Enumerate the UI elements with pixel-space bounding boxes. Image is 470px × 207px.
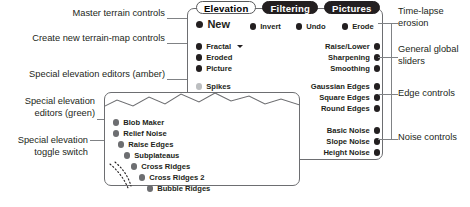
leader-line-edge-controls <box>378 94 398 95</box>
leader-line-global-sliders <box>378 57 398 58</box>
control-label: Fractal <box>206 42 231 51</box>
leader-line-amber-editors <box>167 79 187 80</box>
control-label: Undo <box>306 22 325 31</box>
control-invert[interactable]: Invert <box>250 22 281 31</box>
control-erode[interactable]: Erode <box>342 22 374 31</box>
control-label: Round Edges <box>321 104 370 113</box>
control-cross-ridges-2[interactable]: Cross Ridges 2 <box>139 173 204 182</box>
tab-elevation[interactable]: Elevation <box>196 1 256 14</box>
toggle-dot-icon[interactable] <box>374 83 380 89</box>
control-label: Picture <box>206 64 232 73</box>
tab-pictures[interactable]: Pictures <box>324 1 379 14</box>
toggle-dot-icon[interactable] <box>196 43 202 49</box>
control-label: Subplateaus <box>134 151 179 160</box>
control-subplateaus[interactable]: Subplateaus <box>124 151 179 160</box>
toggle-dot-icon[interactable] <box>374 149 380 155</box>
annotation-line: General global <box>398 44 458 56</box>
toggle-dot-icon[interactable] <box>196 54 202 60</box>
control-bubble-ridges[interactable]: Bubble Ridges <box>147 184 210 193</box>
annotation-line: Time-lapse <box>398 6 444 18</box>
toggle-dot-icon[interactable] <box>113 119 119 125</box>
toggle-dot-icon[interactable] <box>196 21 203 28</box>
control-label: Cross Ridges <box>141 162 190 171</box>
control-label: Square Edges <box>319 93 370 102</box>
control-label: Slope Noise <box>326 137 369 146</box>
control-eroded[interactable]: Eroded <box>196 53 232 62</box>
annotation-time-lapse-erosion: Time-lapse erosion <box>398 6 444 29</box>
control-label: Blob Maker <box>123 118 164 127</box>
leader-line-create-new-terrain <box>167 43 187 44</box>
control-label: Smoothing <box>330 64 370 73</box>
toggle-dot-icon[interactable] <box>124 152 130 158</box>
control-raise-edges[interactable]: Raise Edges <box>118 140 173 149</box>
control-label: Cross Ridges 2 <box>149 173 204 182</box>
annotation-line: Special elevation <box>0 135 88 147</box>
annotation-noise-controls: Noise controls <box>398 132 457 144</box>
annotation-line: sliders <box>398 56 458 68</box>
control-height-noise[interactable]: Height Noise <box>323 148 380 157</box>
control-new[interactable]: New <box>196 20 230 29</box>
tab-label: Pictures <box>332 3 371 14</box>
toggle-dot-icon[interactable] <box>196 83 202 89</box>
control-slope-noise[interactable]: Slope Noise <box>326 137 380 146</box>
control-raise-lower[interactable]: Raise/Lower <box>325 42 380 51</box>
torn-edge-decoration <box>104 92 300 113</box>
toggle-dot-icon[interactable] <box>374 94 380 100</box>
control-label: Raise/Lower <box>325 42 370 51</box>
leader-line-master-terrain <box>167 18 187 19</box>
control-label: New <box>207 20 230 29</box>
toggle-dot-icon[interactable] <box>147 185 153 191</box>
dotted-arc-marker-green <box>106 160 132 192</box>
annotation-line: Special elevation editors (amber) <box>29 69 165 79</box>
control-gaussian-edges[interactable]: Gaussian Edges <box>311 82 380 91</box>
control-label: Height Noise <box>323 148 369 157</box>
control-square-edges[interactable]: Square Edges <box>319 93 380 102</box>
annotation-line: Noise controls <box>398 132 457 142</box>
toggle-dot-icon[interactable] <box>374 127 380 133</box>
chevron-down-icon[interactable] <box>237 45 243 48</box>
control-picture[interactable]: Picture <box>196 64 232 73</box>
annotation-line: Create new terrain-map controls <box>32 33 165 43</box>
leader-line-right-spine <box>391 23 392 140</box>
control-label: Eroded <box>206 53 232 62</box>
toggle-dot-icon[interactable] <box>374 105 380 111</box>
control-blob-maker[interactable]: Blob Maker <box>113 118 164 127</box>
annotation-line: erosion <box>398 18 444 30</box>
toggle-dot-icon[interactable] <box>374 65 380 71</box>
toggle-dot-icon[interactable] <box>374 43 380 49</box>
control-sharpening[interactable]: Sharpening <box>328 53 380 62</box>
control-undo[interactable]: Undo <box>296 22 326 31</box>
annotation-line: Special elevation <box>0 96 95 108</box>
toggle-dot-icon[interactable] <box>296 23 302 29</box>
control-label: Erode <box>352 22 374 31</box>
toggle-dot-icon[interactable] <box>342 23 348 29</box>
leader-line-noise-controls <box>378 139 398 140</box>
annotation-master-terrain-controls: Master terrain controls <box>10 8 165 20</box>
control-cross-ridges[interactable]: Cross Ridges <box>131 162 190 171</box>
control-label: Invert <box>260 22 281 31</box>
annotation-line: Edge controls <box>398 88 455 98</box>
annotation-special-elevation-toggle-switch: Special elevation toggle switch <box>0 135 88 158</box>
toggle-dot-icon[interactable] <box>118 141 124 147</box>
tab-label: Elevation <box>204 3 248 14</box>
control-relief-noise[interactable]: Relief Noise <box>113 129 167 138</box>
annotation-create-new-terrain-map-controls: Create new terrain-map controls <box>0 33 165 45</box>
control-label: Relief Noise <box>123 129 166 138</box>
control-label: Sharpening <box>328 53 370 62</box>
toggle-dot-icon[interactable] <box>113 130 119 136</box>
control-label: Bubble Ridges <box>157 184 210 193</box>
annotation-line: editors (green) <box>0 108 95 120</box>
tab-label: Filtering <box>270 3 310 14</box>
control-round-edges[interactable]: Round Edges <box>321 104 380 113</box>
control-fractal[interactable]: Fractal <box>196 42 243 51</box>
control-smoothing[interactable]: Smoothing <box>330 64 380 73</box>
control-label: Gaussian Edges <box>311 82 370 91</box>
tab-filtering[interactable]: Filtering <box>262 1 318 14</box>
toggle-dot-icon[interactable] <box>139 174 145 180</box>
toggle-dot-icon[interactable] <box>196 65 202 71</box>
toggle-dot-icon[interactable] <box>250 23 256 29</box>
control-label: Raise Edges <box>128 140 173 149</box>
control-spikes[interactable]: Spikes <box>196 82 231 91</box>
control-basic-noise[interactable]: Basic Noise <box>327 126 380 135</box>
annotation-line: Master terrain controls <box>73 8 165 18</box>
